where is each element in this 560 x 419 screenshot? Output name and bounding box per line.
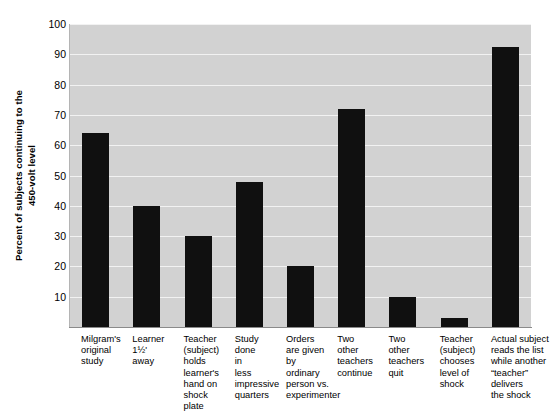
bar[interactable] <box>82 133 109 327</box>
y-axis-tick-label: 30 <box>36 231 66 242</box>
x-axis-category-label-line: plate <box>184 401 243 412</box>
y-axis-tick-labels: 102030405060708090100 <box>36 24 66 327</box>
x-axis-category-label-line: Actual subject <box>491 334 550 345</box>
y-axis-tick-label: 100 <box>36 19 66 30</box>
bar[interactable] <box>185 236 212 327</box>
y-axis-tick-label: 80 <box>36 80 66 91</box>
bar[interactable] <box>133 206 160 327</box>
y-axis-tick-label: 10 <box>36 292 66 303</box>
bar[interactable] <box>287 266 314 327</box>
x-axis-category-label-line: reads the list <box>491 345 550 356</box>
x-axis-category-label-line: the shock <box>491 390 550 401</box>
y-axis-tick-label: 40 <box>36 201 66 212</box>
x-axis-category-labels: Milgram'soriginalstudyLearner1½'awayTeac… <box>70 334 531 418</box>
y-axis-tick-label: 50 <box>36 171 66 182</box>
bar[interactable] <box>492 47 519 327</box>
x-axis-category-label: Actual subjectreads the listwhile anothe… <box>491 334 550 401</box>
y-axis-line <box>69 24 70 328</box>
x-axis-category-label-line: while another <box>491 356 550 367</box>
x-axis-category-label-line: “teacher” <box>491 368 550 379</box>
bar-chart-figure: Percent of subjects continuing to the 45… <box>0 0 560 419</box>
y-axis-title-line-1: Percent of subjects continuing to the <box>14 90 27 261</box>
y-axis-tick-label: 20 <box>36 261 66 272</box>
x-axis-category-label-line: experimenter <box>286 390 345 401</box>
bar[interactable] <box>389 297 416 327</box>
y-axis-tick-label: 60 <box>36 140 66 151</box>
bar[interactable] <box>441 318 468 327</box>
bars-series <box>70 24 531 327</box>
y-axis-tick-label: 70 <box>36 110 66 121</box>
plot-area <box>70 24 531 327</box>
x-axis-category-label-line: person vs. <box>286 379 345 390</box>
x-axis-category-label-line: delivers <box>491 379 550 390</box>
y-axis-tick-label: 90 <box>36 49 66 60</box>
x-axis-line <box>69 327 532 328</box>
bar[interactable] <box>338 109 365 327</box>
bar[interactable] <box>236 182 263 327</box>
